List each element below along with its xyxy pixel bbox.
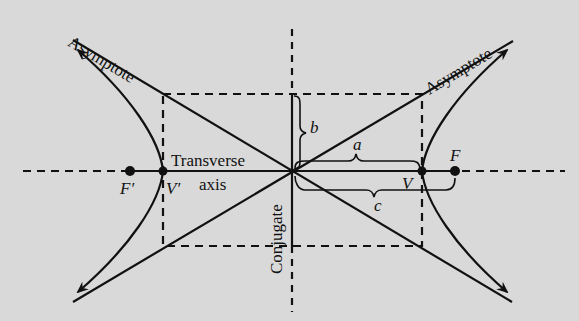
brace-b — [294, 96, 306, 169]
center-point — [290, 169, 295, 174]
vertex-right-point — [418, 167, 427, 176]
brace-a — [295, 154, 420, 168]
vertex-left-point — [159, 167, 168, 176]
transverse-axis-label-line1: Transverse — [171, 152, 245, 169]
transverse-axis-label-line2: axis — [199, 176, 226, 193]
focus-right-point — [450, 166, 460, 176]
semi-transverse-a-label: a — [353, 136, 362, 153]
focal-distance-c-label: c — [374, 197, 382, 214]
vertex-right-label: V — [402, 175, 412, 192]
hyperbola-diagram: Asymptote Asymptote Transverse axis Conj… — [0, 0, 579, 321]
focus-left-label: F′ — [120, 180, 134, 197]
conjugate-axis-label: Conjugate — [268, 204, 285, 274]
focus-left-point — [125, 166, 135, 176]
focus-right-label: F — [450, 147, 460, 164]
semi-conjugate-b-label: b — [310, 119, 319, 136]
vertex-left-label: V′ — [166, 180, 180, 197]
